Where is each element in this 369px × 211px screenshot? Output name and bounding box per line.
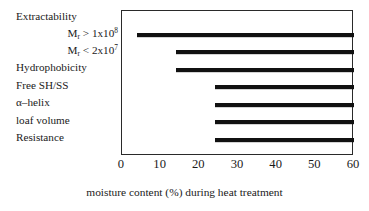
bar-mr-2x10-7: [176, 68, 354, 72]
category-label-text: α–helix: [16, 96, 50, 108]
category-label-mr-less: Mr < 2x107: [16, 45, 119, 58]
plot-frame: [121, 10, 353, 155]
category-label-hydrophobicity: Hydrophobicity: [16, 62, 118, 74]
category-label-mr-greater: Mr > 1x108: [16, 28, 119, 41]
bar-extractability: [137, 33, 354, 37]
mr-comparison: > 1x10: [80, 27, 114, 39]
category-label-extractability: Extractability: [16, 11, 118, 23]
bar-resistance: [215, 138, 354, 142]
plot-area: [122, 11, 352, 154]
mr-symbol: M: [68, 27, 78, 39]
bar-mr-1x10-8: [176, 50, 354, 54]
mr-subscript: r: [78, 32, 80, 41]
mr-comparison: < 2x10: [80, 44, 114, 56]
x-tick-60: 60: [347, 157, 360, 171]
mr-exponent: 7: [114, 43, 118, 52]
x-tick-50: 50: [308, 157, 321, 171]
category-label-text: Extractability: [16, 10, 77, 22]
x-axis-caption: moisture content (%) during heat treatme…: [0, 186, 369, 199]
category-label-text: Free SH/SS: [16, 79, 69, 91]
mr-subscript: r: [78, 49, 80, 58]
category-label-loaf-volume: loaf volume: [16, 115, 118, 127]
category-label-text: Hydrophobicity: [16, 61, 87, 73]
category-label-alpha-helix: α–helix: [16, 97, 118, 109]
x-tick-40: 40: [269, 157, 282, 171]
bar-free-sh-ss: [215, 103, 354, 107]
category-label-free-sh-ss: Free SH/SS: [16, 80, 118, 92]
category-label-text: Resistance: [16, 131, 64, 143]
bar-chart-figure: Extractability Mr > 1x108 Mr < 2x107 Hyd…: [0, 0, 369, 211]
mr-symbol: M: [68, 44, 78, 56]
mr-exponent: 8: [114, 26, 118, 35]
bar-hydrophobicity: [215, 85, 354, 89]
bar-loaf-volume: [215, 120, 354, 124]
x-tick-0: 0: [118, 157, 124, 171]
category-label-resistance: Resistance: [16, 132, 118, 144]
category-label-text: loaf volume: [16, 114, 70, 126]
x-tick-10: 10: [153, 157, 166, 171]
x-tick-20: 20: [192, 157, 205, 171]
x-tick-30: 30: [231, 157, 244, 171]
category-label-column: Extractability Mr > 1x108 Mr < 2x107 Hyd…: [16, 11, 118, 155]
x-axis-tick-labels: 0102030405060: [121, 157, 353, 173]
